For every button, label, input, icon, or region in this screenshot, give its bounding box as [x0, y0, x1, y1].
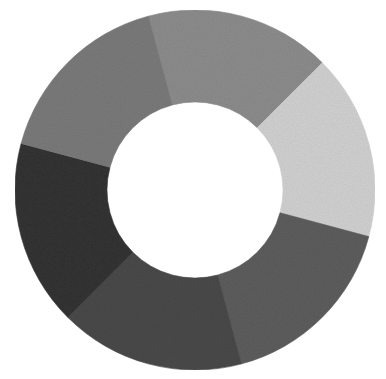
segment-lower-right	[218, 213, 369, 364]
ring-segments	[15, 10, 375, 370]
segment-upper-left	[21, 16, 172, 167]
ring-figure	[0, 0, 386, 379]
